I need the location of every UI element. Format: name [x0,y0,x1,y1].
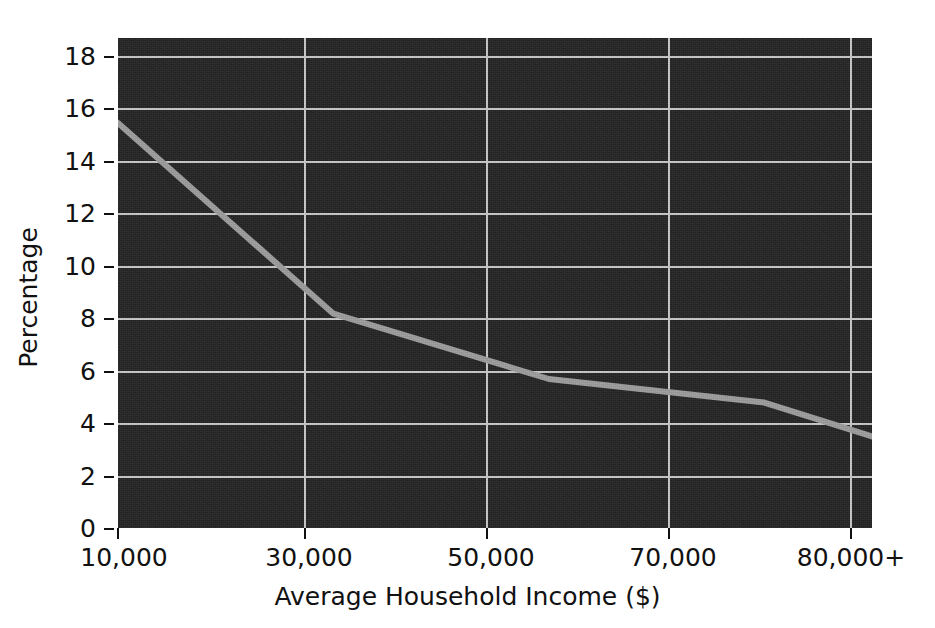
xtick-label-30000: 30,000 [265,545,352,570]
ytick-label-6: 6 [38,359,96,384]
tick-x-50000 [486,528,488,539]
tick-y-4 [104,423,114,425]
tick-y-16 [104,108,114,110]
tick-y-6 [104,371,114,373]
tick-x-10000 [117,528,119,539]
tick-y-18 [104,56,114,58]
tick-y-12 [104,213,114,215]
ytick-label-18: 18 [38,44,96,69]
tick-x-80000 [850,528,852,539]
tick-x-70000 [668,528,670,539]
x-axis-title: Average Household Income ($) [0,582,935,611]
xtick-label-80000: 80,000+ [797,545,905,570]
ytick-label-10: 10 [38,254,96,279]
line-chart-figure: 18 16 14 12 10 8 6 4 2 0 10,000 30,000 5… [0,0,935,628]
data-series-line [118,38,872,528]
tick-y-14 [104,161,114,163]
y-axis-title: Percentage [14,208,43,388]
tick-x-30000 [304,528,306,539]
tick-y-10 [104,266,114,268]
tick-y-8 [104,318,114,320]
ytick-label-12: 12 [38,201,96,226]
tick-y-0 [104,528,114,530]
ytick-label-8: 8 [38,306,96,331]
ytick-label-16: 16 [38,96,96,121]
tick-y-2 [104,476,114,478]
xtick-label-10000: 10,000 [80,545,167,570]
ytick-label-0: 0 [38,516,96,541]
xtick-label-70000: 70,000 [629,545,716,570]
xtick-label-50000: 50,000 [447,545,534,570]
ytick-label-4: 4 [38,411,96,436]
plot-area [118,38,872,528]
ytick-label-14: 14 [38,149,96,174]
ytick-label-2: 2 [38,464,96,489]
